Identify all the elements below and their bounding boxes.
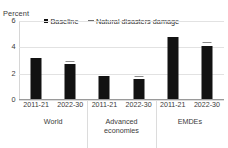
bar [31, 58, 42, 100]
y-axis-unit-label: Percent [3, 9, 29, 18]
y-axis-tick-label: 2 [11, 70, 15, 77]
period-label: 2011-21 [92, 102, 118, 110]
bar-group-slot [53, 21, 87, 100]
y-axis-tick-label: 4 [11, 44, 15, 51]
category-axis: 2011-212022-302011-212022-302011-212022-… [19, 100, 224, 148]
bar-series [19, 21, 224, 100]
plot-area: 0246 [19, 21, 224, 100]
y-axis-tick-label: 6 [11, 17, 15, 24]
y-axis-tick-label: 0 [11, 96, 15, 103]
period-label: 2022-30 [126, 102, 152, 110]
group-label: World [44, 117, 63, 126]
period-label: 2022-30 [194, 102, 220, 110]
natural-disasters-damage-marker [202, 42, 211, 43]
bar-group-slot [156, 21, 190, 100]
bar-group-slot [190, 21, 224, 100]
period-label: 2022-30 [57, 102, 83, 110]
bar [99, 76, 110, 100]
natural-disasters-damage-marker [66, 61, 75, 62]
chart-container: Percent Baseline Natural disasters damag… [0, 0, 228, 148]
bar [65, 64, 76, 100]
bar [133, 79, 144, 100]
bar-group-slot [19, 21, 53, 100]
group-label: EMDEs [178, 117, 202, 126]
period-label: 2011-21 [23, 102, 49, 110]
group-label: Advanced economies [104, 117, 139, 135]
bar-group-slot [87, 21, 121, 100]
natural-disasters-damage-marker [134, 76, 143, 77]
period-label: 2011-21 [160, 102, 186, 110]
bar [167, 37, 178, 100]
period-labels: 2011-212022-302011-212022-302011-212022-… [19, 102, 224, 114]
bar-group-slot [122, 21, 156, 100]
bar [201, 46, 212, 100]
